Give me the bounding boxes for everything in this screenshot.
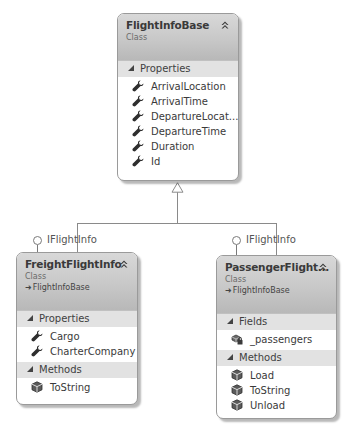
member-item[interactable]: Load (217, 368, 336, 383)
interface-circle-icon (232, 236, 241, 245)
section-body-fields: _passengers (217, 330, 336, 350)
member-name: Load (250, 370, 274, 381)
expander-triangle-icon[interactable] (128, 65, 134, 71)
section-body-properties: Cargo CharterCompany (17, 327, 137, 362)
property-wrench-icon (132, 110, 144, 122)
interface-label: IFlightInfo (47, 234, 97, 245)
member-item[interactable]: Cargo (17, 329, 137, 344)
class-title: FlightInfoBase (126, 19, 231, 31)
expander-triangle-icon[interactable] (227, 354, 233, 360)
member-item[interactable]: CharterCompany (17, 344, 137, 359)
property-wrench-icon (31, 345, 43, 357)
section-body-methods: Load ToString Unload (217, 366, 336, 416)
section-label: Methods (39, 364, 82, 375)
class-title: FreightFlightInfo (25, 258, 130, 270)
expander-triangle-icon[interactable] (227, 318, 233, 324)
class-header[interactable]: FlightInfoBase Class (118, 14, 238, 61)
member-item[interactable]: ToString (17, 380, 137, 395)
member-name: Id (151, 156, 160, 167)
member-name: DepartureLocat... (151, 111, 238, 122)
base-class-label: ➜FlightInfoBase (225, 286, 329, 295)
section-header-methods[interactable]: Methods (17, 362, 137, 378)
property-wrench-icon (31, 330, 43, 342)
private-field-icon (231, 333, 243, 345)
inheritance-arrow-icon (171, 182, 184, 193)
section-label: Methods (239, 352, 282, 363)
member-item[interactable]: DepartureLocat... (118, 109, 238, 124)
base-class-name: FlightInfoBase (33, 283, 90, 292)
base-class-label: ➜FlightInfoBase (25, 283, 130, 292)
property-wrench-icon (132, 80, 144, 92)
section-label: Properties (39, 313, 90, 324)
member-name: ArrivalLocation (151, 81, 226, 92)
section-header-methods[interactable]: Methods (217, 350, 336, 366)
collapse-chevron-icon[interactable] (318, 262, 328, 272)
class-title: PassengerFlight... (225, 261, 329, 273)
property-wrench-icon (132, 140, 144, 152)
class-box-flightinfobase[interactable]: FlightInfoBase Class Properties ArrivalL… (117, 13, 239, 181)
member-name: ToString (50, 382, 90, 393)
member-name: CharterCompany (50, 346, 135, 357)
class-stereotype: Class (25, 272, 130, 281)
class-box-passengerflightinfo[interactable]: PassengerFlight... Class ➜FlightInfoBase… (216, 255, 337, 419)
member-item[interactable]: ArrivalLocation (118, 79, 238, 94)
collapse-chevron-icon[interactable] (119, 259, 129, 269)
inherits-arrow-icon: ➜ (25, 283, 32, 292)
section-body-methods: ToString (17, 378, 137, 398)
collapse-chevron-icon[interactable] (220, 20, 230, 30)
interface-stem (37, 245, 38, 252)
interface-label: IFlightInfo (246, 234, 296, 245)
section-header-fields[interactable]: Fields (217, 314, 336, 330)
class-box-freightflightinfo[interactable]: FreightFlightInfo Class ➜FlightInfoBase … (16, 252, 138, 405)
section-body-properties: ArrivalLocation ArrivalTime DepartureLoc… (118, 77, 238, 172)
section-header-properties[interactable]: Properties (118, 61, 238, 77)
interface-circle-icon (33, 236, 42, 245)
member-item[interactable]: Duration (118, 139, 238, 154)
member-name: ArrivalTime (151, 96, 208, 107)
class-header[interactable]: PassengerFlight... Class ➜FlightInfoBase (217, 256, 336, 314)
class-header[interactable]: FreightFlightInfo Class ➜FlightInfoBase (17, 253, 137, 311)
method-cube-icon (231, 369, 243, 381)
member-item[interactable]: ToString (217, 383, 336, 398)
member-name: Unload (250, 400, 285, 411)
inheritance-horizontal-line (77, 223, 277, 224)
base-class-name: FlightInfoBase (233, 286, 290, 295)
interface-stem (236, 245, 237, 255)
method-cube-icon (231, 399, 243, 411)
property-wrench-icon (132, 155, 144, 167)
class-stereotype: Class (126, 33, 231, 42)
member-name: _passengers (250, 334, 312, 345)
member-name: DepartureTime (151, 126, 226, 137)
expander-triangle-icon[interactable] (27, 366, 33, 372)
member-name: Duration (151, 141, 194, 152)
inheritance-trunk-line (177, 192, 178, 223)
member-item[interactable]: _passengers (217, 332, 336, 347)
property-wrench-icon (132, 95, 144, 107)
class-stereotype: Class (225, 275, 329, 284)
section-label: Fields (239, 316, 267, 327)
method-cube-icon (231, 384, 243, 396)
member-item[interactable]: Unload (217, 398, 336, 413)
property-wrench-icon (132, 125, 144, 137)
section-header-properties[interactable]: Properties (17, 311, 137, 327)
inherits-arrow-icon: ➜ (225, 286, 232, 295)
member-item[interactable]: Id (118, 154, 238, 169)
expander-triangle-icon[interactable] (27, 315, 33, 321)
member-name: Cargo (50, 331, 80, 342)
member-item[interactable]: DepartureTime (118, 124, 238, 139)
member-name: ToString (250, 385, 290, 396)
member-item[interactable]: ArrivalTime (118, 94, 238, 109)
section-label: Properties (140, 63, 191, 74)
method-cube-icon (31, 381, 43, 393)
